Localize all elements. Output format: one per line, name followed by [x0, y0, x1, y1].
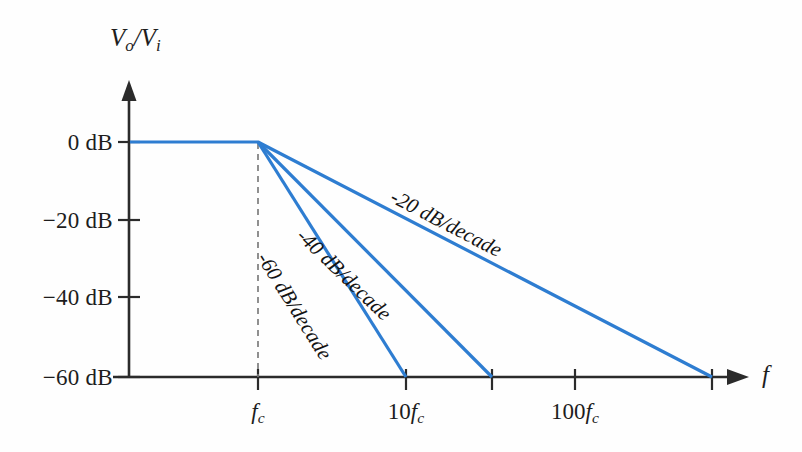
- x-tick-100fc-prefix: 100: [551, 399, 586, 424]
- x-tick-fc-sub: c: [258, 409, 265, 426]
- x-tick-10fc-sub: c: [417, 409, 424, 426]
- curve-20db-per-decade: [130, 142, 712, 377]
- y-axis-title-v-in: V: [141, 24, 156, 51]
- y-axis-title-sub-i: i: [156, 36, 161, 55]
- curve-40db-per-decade: [258, 142, 492, 377]
- x-tick-label-fc: fc: [228, 400, 288, 426]
- x-axis-title: f: [762, 362, 769, 387]
- y-axis-title: Vo/Vi: [110, 25, 161, 54]
- y-axis-title-v-out: V: [110, 24, 125, 51]
- y-tick-label-minus40db: −40 dB: [10, 286, 113, 309]
- x-axis: [113, 369, 749, 385]
- y-tick-label-0db: 0 dB: [18, 131, 113, 154]
- y-axis-title-sub-o: o: [125, 36, 134, 55]
- x-tick-100fc-sub: c: [592, 409, 599, 426]
- plot-canvas: [0, 0, 802, 452]
- y-axis: [122, 80, 137, 378]
- x-tick-label-10fc: 10fc: [368, 400, 444, 426]
- y-axis-title-slash: /: [134, 24, 141, 51]
- x-tick-label-100fc: 100fc: [530, 400, 620, 426]
- y-tick-label-minus20db: −20 dB: [10, 209, 113, 232]
- bode-plot-figure: Vo/Vi f 0 dB −20 dB −40 dB −60 dB fc 10f…: [0, 0, 802, 452]
- y-tick-label-minus60db: −60 dB: [10, 366, 113, 389]
- x-tick-10fc-prefix: 10: [388, 399, 411, 424]
